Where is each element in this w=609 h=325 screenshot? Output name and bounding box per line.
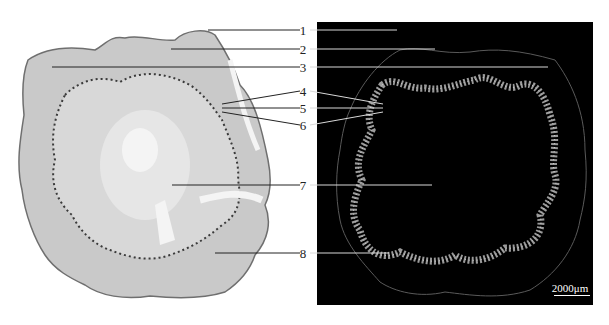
- scale-bar-label: 2000μm: [550, 282, 590, 294]
- label-8: 8: [296, 247, 310, 260]
- label-6: 6: [296, 119, 310, 132]
- label-7: 7: [296, 179, 310, 192]
- label-5: 5: [296, 102, 310, 115]
- label-3: 3: [296, 61, 310, 74]
- label-1: 1: [296, 24, 310, 37]
- scale-bar-line: [554, 295, 590, 296]
- label-4: 4: [296, 85, 310, 98]
- label-2: 2: [296, 43, 310, 56]
- figure: 1 2 3 4 5 6 7 8 2000μm: [0, 0, 609, 325]
